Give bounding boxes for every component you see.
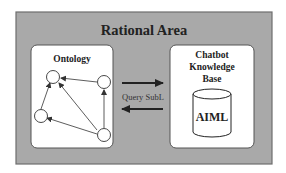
rational-area-title: Rational Area <box>101 22 188 38</box>
diagram-canvas: Rational Area Ontology Query SubL Chatbo… <box>0 0 286 173</box>
ontology-node-top <box>47 71 60 84</box>
ontology-node-right <box>98 76 111 89</box>
aiml-label: AIML <box>196 110 229 124</box>
ontology-panel: Ontology <box>31 45 113 148</box>
ontology-label: Ontology <box>53 54 91 64</box>
knowledge-base-panel: Chatbot Knowledge Base AIML <box>170 45 254 148</box>
ontology-node-bottom-right <box>98 129 111 142</box>
kb-label-line-2: Knowledge <box>189 62 234 72</box>
kb-label-line-3: Base <box>203 74 222 84</box>
kb-label-line-1: Chatbot <box>195 50 229 60</box>
query-subl-label: Query SubL <box>122 92 164 102</box>
ontology-node-left <box>35 110 48 123</box>
